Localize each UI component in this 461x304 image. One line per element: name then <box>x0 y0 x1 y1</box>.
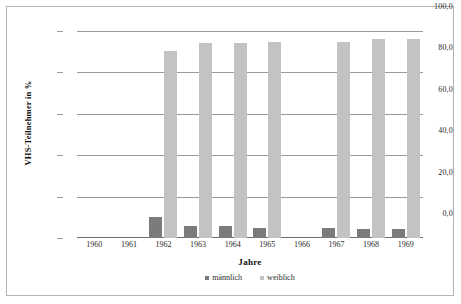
x-tick-label-1962: 1962 <box>146 240 181 249</box>
bar-female-1963 <box>199 43 212 238</box>
x-tick-label-1963: 1963 <box>181 240 216 249</box>
bar-group-1967 <box>319 31 354 238</box>
bar-male-1967 <box>322 228 335 238</box>
legend-entry-maennlich: männlich <box>205 273 242 282</box>
bar-male-1964 <box>219 226 232 238</box>
bar-male-1969 <box>392 229 405 238</box>
legend-swatch-icon-weiblich <box>260 276 264 280</box>
legend-label-maennlich: männlich <box>212 273 242 282</box>
bar-male-1965 <box>253 228 266 238</box>
x-axis-ticks: 1960 1961 1962 1963 1964 1965 1966 1967 … <box>77 240 423 254</box>
bar-male-1962 <box>149 217 162 238</box>
plot-area <box>77 31 423 238</box>
legend-label-weiblich: weiblich <box>267 273 295 282</box>
chart-legend: männlich weiblich <box>77 273 423 282</box>
y-axis-title: VHS-Teilnehmer in % <box>21 7 35 238</box>
bar-female-1967 <box>337 42 350 238</box>
x-tick-label-1964: 1964 <box>215 240 250 249</box>
y-tick-dash-40 <box>57 155 63 156</box>
legend-entry-weiblich: weiblich <box>260 273 295 282</box>
y-tick-dash-0 <box>57 238 63 239</box>
x-axis-title: Jahre <box>77 257 423 267</box>
x-tick-label-1961: 1961 <box>112 240 147 249</box>
bar-group-1966 <box>285 31 320 238</box>
bar-group-1964 <box>215 31 250 238</box>
y-tick-dash-100 <box>57 31 63 32</box>
x-tick-label-1960: 1960 <box>77 240 112 249</box>
bar-female-1964 <box>234 43 247 238</box>
chart-figure: VHS-Teilnehmer in % 100,0 80,0 60,0 40,0… <box>0 0 461 304</box>
bar-group-1962 <box>146 31 181 238</box>
bar-female-1968 <box>372 39 385 238</box>
bar-female-1969 <box>407 39 420 238</box>
bar-male-1968 <box>357 229 370 238</box>
bar-group-1960 <box>77 31 112 238</box>
bar-female-1962 <box>164 51 177 238</box>
x-tick-label-1966: 1966 <box>285 240 320 249</box>
bar-group-1965 <box>250 31 285 238</box>
y-tick-dash-80 <box>57 72 63 73</box>
bar-female-1965 <box>268 42 281 238</box>
x-tick-label-1965: 1965 <box>250 240 285 249</box>
x-tick-label-1967: 1967 <box>319 240 354 249</box>
bar-group-1968 <box>354 31 389 238</box>
y-axis-title-label: VHS-Teilnehmer in % <box>23 80 33 165</box>
x-tick-label-1968: 1968 <box>354 240 389 249</box>
chart-frame: VHS-Teilnehmer in % 100,0 80,0 60,0 40,0… <box>6 6 454 296</box>
bar-group-1963 <box>181 31 216 238</box>
y-tick-dash-20 <box>57 197 63 198</box>
y-tick-label-100: 100,0 <box>409 2 453 11</box>
bar-male-1963 <box>184 226 197 238</box>
bar-group-1969 <box>388 31 423 238</box>
x-tick-label-1969: 1969 <box>388 240 423 249</box>
y-tick-dash-60 <box>57 114 63 115</box>
legend-swatch-icon-maennlich <box>205 276 209 280</box>
bar-group-1961 <box>112 31 147 238</box>
